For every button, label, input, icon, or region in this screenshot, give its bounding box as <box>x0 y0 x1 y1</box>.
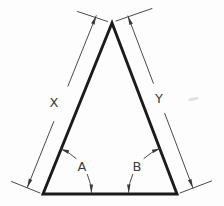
extension-line-apex-right <box>116 9 152 22</box>
extension-line-bottom-right <box>180 181 212 193</box>
label-x: X <box>50 95 59 110</box>
arrowhead-b-base <box>127 184 131 192</box>
arrowhead-y-top <box>128 16 133 25</box>
triangle-dimension-diagram: X Y A B <box>0 0 224 206</box>
triangle-outline <box>43 23 177 194</box>
angle-a-callout: A <box>61 149 93 193</box>
arrowhead-a-side <box>61 149 69 154</box>
label-a: A <box>78 159 87 174</box>
extension-lines <box>12 9 212 194</box>
arrowhead-b-side <box>152 149 160 154</box>
scan-artifact <box>188 96 199 101</box>
arrowhead-x-bottom <box>27 179 32 188</box>
label-y: Y <box>154 91 163 106</box>
arrowhead-y-bottom <box>188 179 193 188</box>
label-b: B <box>133 159 142 174</box>
extension-line-apex-left <box>78 12 108 22</box>
extension-line-bottom-left <box>12 182 41 194</box>
angle-b-callout: B <box>127 149 160 193</box>
arrowhead-a-base <box>90 184 94 192</box>
scanned-diagram-page: X Y A B <box>0 0 224 206</box>
